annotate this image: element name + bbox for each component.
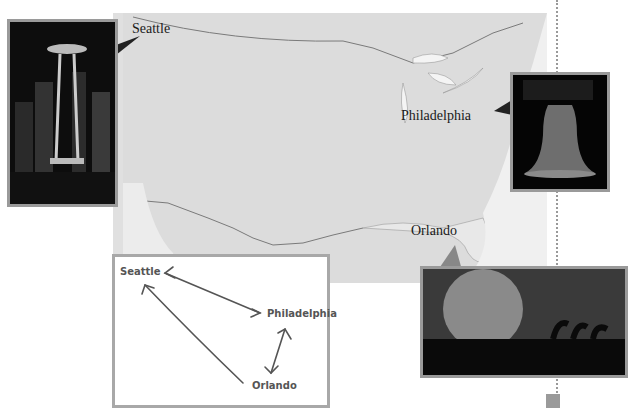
diagram-node-orlando: Orlando (252, 380, 297, 391)
liberty-bell-icon (513, 75, 607, 189)
epcot-sphere-icon (423, 269, 625, 375)
route-diagram: Seattle Philadelphia Orlando (112, 254, 330, 408)
diagram-node-seattle: Seattle (120, 266, 161, 277)
orlando-epcot-sphere-photo (420, 266, 628, 378)
diagram-node-philadelphia: Philadelphia (267, 308, 337, 319)
seattle-space-needle-photo (7, 19, 118, 207)
space-needle-icon (10, 22, 115, 204)
philadelphia-liberty-bell-photo (510, 72, 610, 192)
